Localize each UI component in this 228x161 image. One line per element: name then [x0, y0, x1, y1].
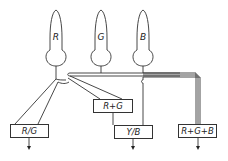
channel-rgb-label: R+G+B: [181, 126, 214, 136]
channel-yb-box: Y/B: [114, 125, 153, 139]
receptor-b-label: B: [138, 33, 148, 42]
channel-rgb-box: R+G+B: [178, 124, 217, 138]
channel-yb-label: Y/B: [127, 127, 141, 137]
channel-rg-box: R/G: [10, 124, 49, 138]
channel-r-plus-g-label: R+G: [103, 101, 123, 111]
channel-r-plus-g-box: R+G: [93, 99, 133, 113]
channel-rg-label: R/G: [22, 126, 37, 136]
receptor-g-label: G: [96, 33, 106, 42]
receptor-r-label: R: [51, 33, 61, 42]
